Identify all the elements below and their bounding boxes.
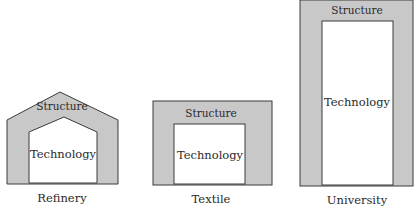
refinery-caption: Refinery — [37, 191, 86, 205]
textile-structure-label: Structure — [185, 107, 236, 119]
refinery-structure-label: Structure — [36, 100, 87, 112]
university-diagram — [300, 0, 413, 186]
university-technology-label: Technology — [324, 95, 390, 109]
textile-technology-label: Technology — [177, 148, 243, 162]
textile-caption: Textile — [192, 192, 231, 206]
university-structure-label: Structure — [331, 4, 382, 16]
university-caption: University — [327, 193, 387, 207]
refinery-technology-label: Technology — [30, 147, 96, 161]
